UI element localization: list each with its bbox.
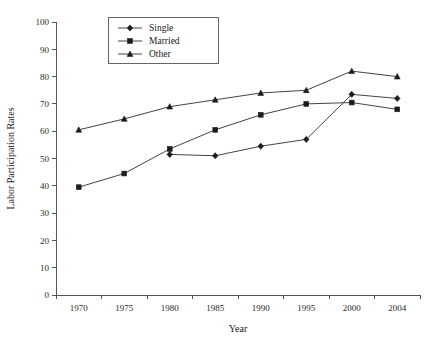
y-tick-label: 40 xyxy=(40,181,50,191)
y-tick-label: 100 xyxy=(36,17,50,27)
x-tick-label: 2004 xyxy=(388,303,407,313)
y-tick-label: 60 xyxy=(40,126,50,136)
x-axis-title: Year xyxy=(229,323,248,334)
legend-label-single: Single xyxy=(149,23,173,33)
y-tick-label: 50 xyxy=(40,154,50,164)
x-tick-label: 1970 xyxy=(70,303,89,313)
legend-marker-married xyxy=(128,39,133,44)
y-tick-label: 80 xyxy=(40,72,50,82)
x-tick-label: 1985 xyxy=(206,303,225,313)
y-tick-label: 30 xyxy=(40,208,50,218)
y-tick-label: 90 xyxy=(40,45,50,55)
data-point-married xyxy=(167,147,172,152)
data-point-single xyxy=(167,151,173,157)
y-axis-title: Labor Participation Rates xyxy=(5,107,16,209)
data-point-married xyxy=(349,100,354,105)
series-line-single xyxy=(170,94,398,155)
y-tick-label: 0 xyxy=(45,290,50,300)
y-tick-label: 10 xyxy=(40,263,50,273)
data-point-married xyxy=(304,102,309,107)
x-tick-label: 2000 xyxy=(343,303,362,313)
data-point-married xyxy=(213,127,218,132)
y-tick-label: 20 xyxy=(40,236,50,246)
x-tick-label: 1995 xyxy=(297,303,316,313)
x-tick-label: 1990 xyxy=(252,303,271,313)
line-chart: 0102030405060708090100197019751980198519… xyxy=(0,0,434,342)
data-point-married xyxy=(258,112,263,117)
data-point-married xyxy=(76,185,81,190)
data-point-single xyxy=(394,95,400,101)
data-point-single xyxy=(212,153,218,159)
legend-label-other: Other xyxy=(149,49,171,59)
legend-label-married: Married xyxy=(149,36,180,46)
data-point-married xyxy=(395,107,400,112)
data-point-single xyxy=(258,143,264,149)
chart-canvas: 0102030405060708090100197019751980198519… xyxy=(0,0,434,342)
data-point-married xyxy=(122,171,127,176)
x-tick-label: 1975 xyxy=(115,303,134,313)
data-point-other xyxy=(349,68,355,73)
y-tick-label: 70 xyxy=(40,99,50,109)
x-tick-label: 1980 xyxy=(161,303,180,313)
